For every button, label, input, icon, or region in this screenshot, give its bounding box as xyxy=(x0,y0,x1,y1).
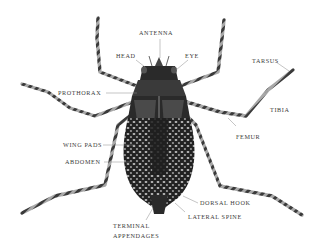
label-prothorax: PROTHORAX xyxy=(58,90,101,96)
label-antenna: ANTENNA xyxy=(139,30,173,36)
insect-illustration xyxy=(0,0,313,251)
label-tibia: TIBIA xyxy=(270,107,290,113)
label-lateral-spine: LATERAL SPINE xyxy=(188,214,242,220)
label-head: HEAD xyxy=(116,53,136,59)
anatomy-diagram: ANTENNA HEAD EYE PROTHORAX TARSUS TIBIA … xyxy=(0,0,313,251)
label-femur: FEMUR xyxy=(236,134,260,140)
label-dorsal-hook: DORSAL HOOK xyxy=(200,200,251,206)
label-abdomen: ABDOMEN xyxy=(65,159,100,165)
label-eye: EYE xyxy=(185,53,199,59)
label-wing-pads: WING PADS xyxy=(63,142,102,148)
front-right-leg xyxy=(175,20,224,88)
head xyxy=(140,57,178,80)
abdomen xyxy=(124,118,195,214)
label-terminal-line1: TERMINAL xyxy=(113,221,159,231)
left-eye xyxy=(141,67,147,74)
label-terminal-line2: APPENDAGES xyxy=(113,231,159,241)
label-tarsus: TARSUS xyxy=(252,58,279,64)
label-terminal-appendages: TERMINAL APPENDAGES xyxy=(113,221,159,240)
